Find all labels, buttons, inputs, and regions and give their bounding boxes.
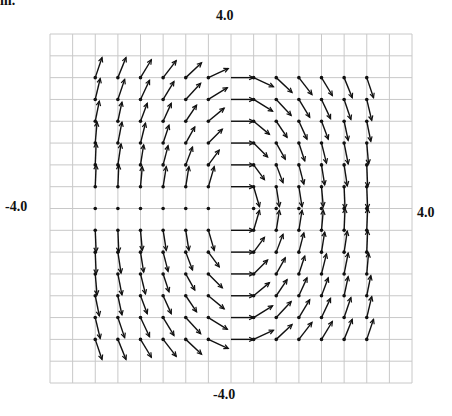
- y-min-label: -4.0: [213, 387, 235, 403]
- x-max-label: 4.0: [417, 205, 435, 221]
- grid-lines: [50, 34, 412, 383]
- vector-field-plot: [0, 0, 452, 416]
- y-max-label: 4.0: [216, 8, 234, 24]
- x-min-label: -4.0: [5, 199, 27, 215]
